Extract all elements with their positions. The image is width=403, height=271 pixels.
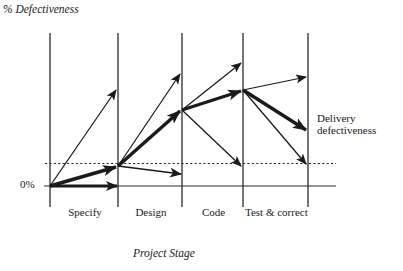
arrow-test-cumulative	[243, 90, 306, 130]
arrow-code-injected	[182, 63, 241, 110]
delivery-annotation-line-2: defectiveness	[317, 124, 376, 136]
stage-label-code: Code	[184, 206, 243, 218]
delivery-defectiveness-annotation: Delivery defectiveness	[317, 112, 376, 137]
arrow-specify-cumulative	[50, 167, 116, 186]
delivery-annotation-line-1: Delivery	[317, 112, 376, 124]
stage-arrows-specify	[50, 90, 117, 186]
defectiveness-chart: % Defectiveness 0% Specify Design Code T…	[0, 0, 403, 271]
stage-label-specify: Specify	[52, 206, 118, 218]
stage-label-design: Design	[120, 206, 182, 218]
arrow-code-removed	[182, 110, 241, 166]
arrow-design-removed	[118, 166, 181, 174]
stage-arrows-code	[182, 63, 241, 166]
y-axis-title: % Defectiveness	[3, 3, 79, 16]
arrow-test-removed	[243, 90, 306, 164]
stage-arrows-design	[118, 74, 181, 174]
arrow-code-cumulative	[182, 91, 241, 110]
zero-percent-label: 0%	[20, 178, 35, 190]
arrow-test-injected	[243, 77, 306, 90]
x-axis-title: Project Stage	[133, 247, 195, 260]
stage-label-test-correct: Test & correct	[245, 206, 307, 218]
stage-arrows-test	[243, 77, 306, 164]
